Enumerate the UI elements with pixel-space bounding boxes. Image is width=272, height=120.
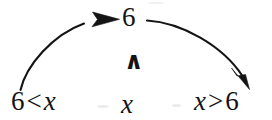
left-expression-relation: <	[25, 86, 44, 116]
right-expression-right-operand: 6	[225, 86, 239, 116]
inequality-rewrite-figure: 6 ∧ 6<x x x>6	[0, 0, 272, 120]
right-expression-left-operand: x	[194, 86, 206, 116]
left-expression: 6<x	[11, 88, 56, 115]
wedge-glyph: ∧	[124, 48, 144, 74]
left-expression-left-operand: 6	[11, 86, 25, 116]
top-to-right-arc-curve	[147, 21, 243, 77]
center-expression: x	[121, 91, 133, 118]
top-expression-value: 6	[122, 2, 136, 32]
right-expression: x>6	[194, 88, 239, 115]
left-to-top-arrowhead	[92, 12, 120, 27]
left-expression-right-operand: x	[44, 86, 56, 116]
center-expression-value: x	[121, 89, 133, 119]
top-expression: 6	[122, 4, 136, 31]
wedge-symbol: ∧	[124, 49, 144, 73]
left-to-top-arc-curve	[21, 24, 85, 91]
right-expression-relation: >	[206, 86, 225, 116]
